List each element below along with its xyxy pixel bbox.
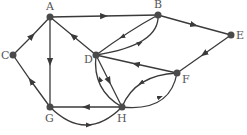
edge-a-b [50, 15, 158, 17]
node-f [174, 70, 181, 77]
node-h [119, 104, 126, 111]
label-e: E [236, 29, 244, 42]
node-a [47, 14, 54, 21]
edge-d-a [50, 17, 96, 55]
edge-f-h [122, 73, 177, 107]
edge-g-h [50, 107, 122, 125]
edge-c-a [13, 17, 50, 55]
label-g: G [45, 112, 54, 125]
edge-b-d [96, 15, 158, 55]
label-f: F [182, 73, 190, 86]
node-e [228, 32, 235, 39]
node-d [93, 52, 100, 59]
node-b [155, 12, 162, 19]
edge-f-d [96, 55, 177, 73]
label-a: A [45, 0, 55, 13]
edge-d-h [96, 55, 122, 107]
label-d: D [84, 53, 93, 66]
label-b: B [154, 0, 162, 11]
label-c: C [1, 49, 9, 62]
edge-g-c [13, 55, 50, 107]
directed-graph: A B C D E F G H [0, 0, 247, 135]
node-g [47, 104, 54, 111]
node-c [10, 52, 17, 59]
label-h: H [117, 112, 127, 125]
edge-e-f [177, 35, 231, 73]
edge-b-e [158, 15, 231, 35]
